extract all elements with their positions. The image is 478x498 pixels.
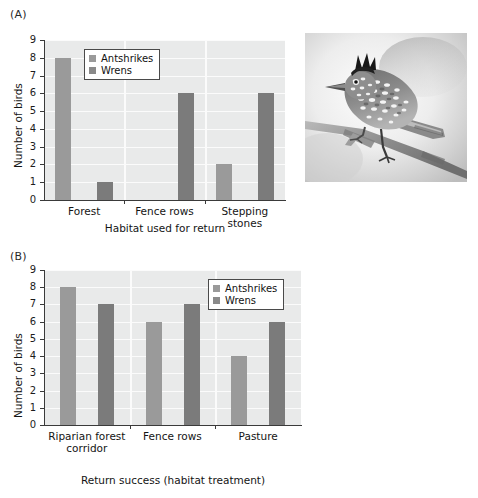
y-axis-tick (40, 164, 44, 165)
gridline (44, 373, 301, 374)
y-axis-tick-label: 0 (22, 195, 36, 205)
y-axis-line-a (44, 40, 45, 201)
x-axis-category-label: Riparian forestcorridor (44, 430, 130, 454)
gridline (44, 356, 301, 357)
plot-area-a (44, 40, 285, 200)
gridline (44, 129, 285, 130)
bar-wrens-fence-rows (184, 304, 200, 425)
x-axis-category-label: Fence rows (130, 430, 216, 442)
x-axis-category-label: Pasture (215, 430, 301, 442)
x-axis-category-label: Forest (44, 205, 124, 217)
bar-antshrikes-forest (55, 58, 71, 200)
chart-panel-b: Number of birds Antshrikes Wrens Return … (0, 250, 330, 498)
y-axis-tick-label: 5 (22, 106, 36, 116)
x-axis-category-line: Fence rows (130, 430, 216, 442)
y-axis-tick-label: 3 (22, 368, 36, 378)
gridline (44, 339, 301, 340)
x-axis-category-line: Riparian forest (44, 430, 130, 442)
gridline (44, 147, 285, 148)
bar-wrens-riparian-forest-corridor (98, 304, 114, 425)
y-axis-tick-label: 2 (22, 159, 36, 169)
figure-two-panel-bar-charts: (A) Number of birds Antshrikes Wrens Hab… (0, 0, 478, 498)
y-axis-tick (40, 287, 44, 288)
legend-row-antshrikes: Antshrikes (213, 283, 277, 294)
y-axis-tick-label: 6 (22, 88, 36, 98)
y-axis-tick (40, 373, 44, 374)
y-axis-tick-label: 4 (22, 124, 36, 134)
gridline (44, 322, 301, 323)
x-axis-category-line: corridor (44, 442, 130, 454)
y-axis-tick (40, 182, 44, 183)
y-axis-tick (40, 391, 44, 392)
legend-swatch-antshrikes-icon (213, 285, 220, 292)
legend-row-wrens: Wrens (213, 295, 277, 306)
y-axis-tick-label: 0 (22, 420, 36, 430)
bar-antshrikes-stepping-stones (216, 164, 232, 200)
gridline (44, 111, 285, 112)
y-axis-tick-label: 1 (22, 403, 36, 413)
legend-label-wrens: Wrens (101, 65, 132, 76)
legend-a: Antshrikes Wrens (84, 49, 160, 80)
y-axis-tick (40, 408, 44, 409)
legend-swatch-wrens-icon (89, 67, 96, 74)
bar-wrens-forest (97, 182, 113, 200)
y-axis-tick-label: 2 (22, 386, 36, 396)
x-axis-line-a (44, 200, 286, 201)
gridline (44, 58, 285, 59)
photo-vector (305, 33, 467, 182)
legend-row-wrens: Wrens (89, 65, 153, 76)
gridline (44, 164, 285, 165)
y-axis-tick-label: 1 (22, 177, 36, 187)
legend-label-wrens: Wrens (225, 295, 256, 306)
gridline (44, 93, 285, 94)
y-axis-tick (40, 425, 44, 426)
y-axis-tick (40, 322, 44, 323)
y-axis-tick (40, 93, 44, 94)
x-axis-category-line: Fence rows (124, 205, 204, 217)
bar-antshrikes-fence-rows (146, 322, 162, 425)
gridline (44, 270, 301, 271)
y-axis-tick-label: 7 (22, 299, 36, 309)
x-axis-tick (205, 200, 206, 204)
y-axis-tick (40, 40, 44, 41)
y-axis-tick (40, 304, 44, 305)
y-axis-tick-label: 4 (22, 351, 36, 361)
gridline (44, 76, 285, 77)
legend-label-antshrikes: Antshrikes (101, 53, 153, 64)
legend-label-antshrikes: Antshrikes (225, 283, 277, 294)
y-axis-tick (40, 76, 44, 77)
y-axis-tick (40, 147, 44, 148)
legend-swatch-wrens-icon (213, 297, 220, 304)
y-axis-line-b (44, 270, 45, 426)
group-separator (205, 40, 207, 200)
gridline (44, 408, 301, 409)
x-axis-category-line: Stepping stones (205, 205, 285, 229)
x-axis-category-line: Pasture (215, 430, 301, 442)
bar-wrens-stepping-stones (258, 93, 274, 200)
chart-panel-a: Number of birds Antshrikes Wrens Habitat… (0, 0, 300, 240)
y-axis-tick (40, 356, 44, 357)
bar-wrens-fence-rows (178, 93, 194, 200)
group-separator (130, 270, 132, 425)
y-axis-tick-label: 8 (22, 53, 36, 63)
bar-wrens-pasture (269, 322, 285, 425)
x-axis-line-b (44, 425, 302, 426)
y-axis-tick-label: 8 (22, 282, 36, 292)
y-axis-tick (40, 339, 44, 340)
y-axis-tick (40, 129, 44, 130)
y-axis-tick (40, 111, 44, 112)
y-axis-tick (40, 200, 44, 201)
y-axis-tick-label: 9 (22, 265, 36, 275)
y-axis-tick-label: 5 (22, 334, 36, 344)
x-axis-category-label: Stepping stones (205, 205, 285, 229)
legend-row-antshrikes: Antshrikes (89, 53, 153, 64)
bar-antshrikes-pasture (231, 356, 247, 425)
legend-swatch-antshrikes-icon (89, 55, 96, 62)
x-axis-tick (124, 200, 125, 204)
y-axis-tick (40, 270, 44, 271)
x-axis-title-b: Return success (habitat treatment) (44, 474, 302, 486)
y-axis-tick-label: 6 (22, 317, 36, 327)
x-axis-category-line: Forest (44, 205, 124, 217)
y-axis-tick-label: 9 (22, 35, 36, 45)
x-axis-tick (215, 425, 216, 429)
